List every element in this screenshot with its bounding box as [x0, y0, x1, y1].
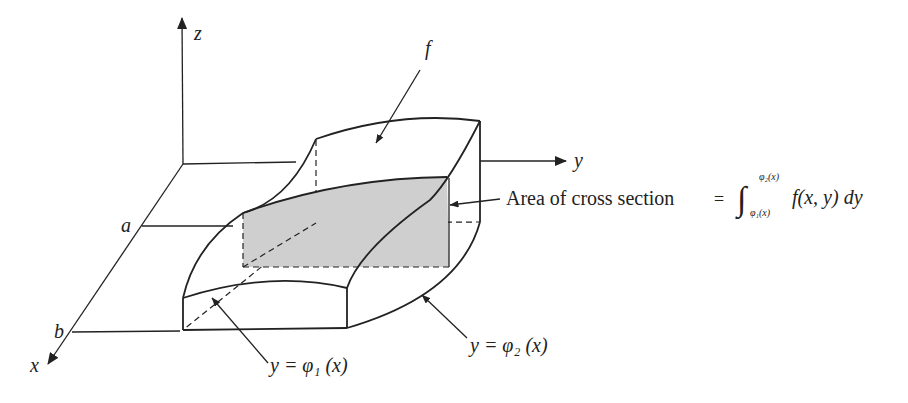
phi2-pointer: [422, 295, 467, 338]
axes: [48, 18, 566, 364]
a-label: a: [121, 214, 131, 236]
x-axis: [48, 164, 183, 364]
phi1-pointer: [212, 298, 268, 363]
y-axis-back: [183, 162, 296, 164]
b-bound-line: [72, 331, 180, 332]
surface-f-label: f: [425, 37, 433, 60]
equals-sign: =: [714, 189, 724, 209]
iterated-integral-diagram: z y x a b f Area of cross section = ∫ φ₂…: [0, 0, 908, 403]
integral-sign: ∫: [735, 180, 749, 220]
cross-section: [243, 177, 449, 267]
phi2-label: y = φ₂ (x): [468, 334, 548, 357]
z-axis-label: z: [193, 22, 202, 44]
integrand: f(x, y) dy: [792, 186, 863, 209]
integral-lower-limit: φ₁(x): [750, 207, 771, 219]
z-axis: [182, 18, 183, 164]
x-axis-label: x: [29, 354, 39, 376]
phi1-label: y = φ₁ (x): [268, 354, 348, 377]
b-label: b: [54, 320, 64, 342]
cross-section-fill: [243, 177, 449, 267]
integral-upper-limit: φ₂(x): [759, 171, 780, 183]
area-pointer: [450, 199, 500, 205]
cross-section-caption: Area of cross section: [506, 187, 674, 209]
f-pointer: [376, 70, 420, 143]
y-axis-label: y: [572, 149, 583, 172]
